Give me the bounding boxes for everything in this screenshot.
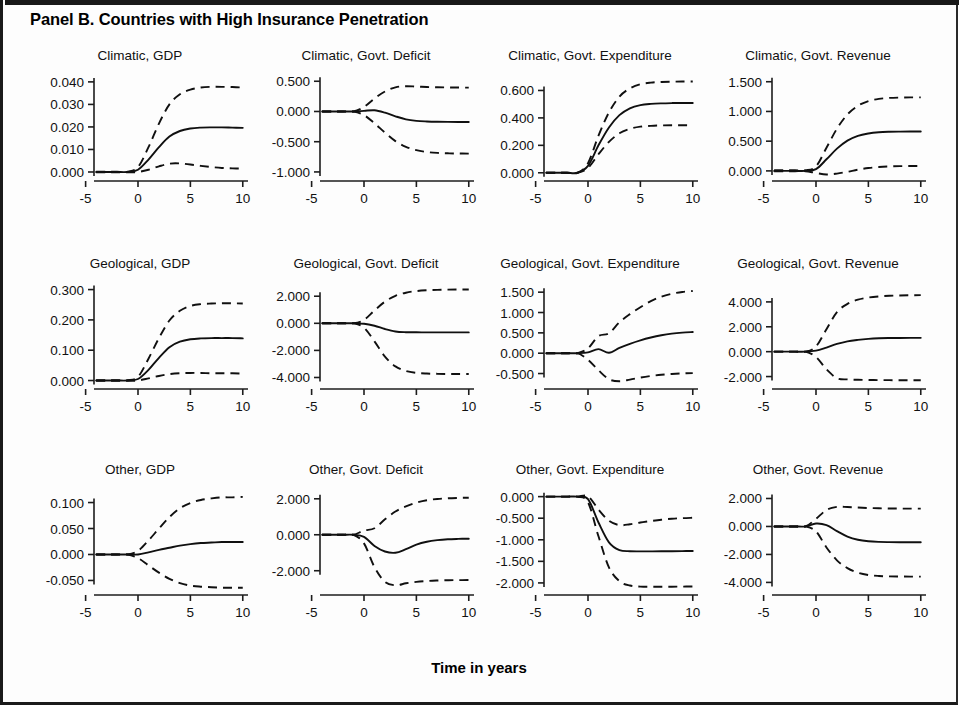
svg-text:0.000: 0.000	[728, 164, 762, 179]
svg-text:0: 0	[360, 399, 368, 414]
svg-text:5: 5	[637, 191, 645, 206]
irf-line-upper	[546, 82, 693, 174]
svg-text:0.000: 0.000	[276, 528, 310, 543]
svg-text:-0.500: -0.500	[272, 135, 310, 150]
panel-title: Geological, Govt. Revenue	[700, 256, 936, 271]
svg-text:10: 10	[685, 605, 700, 620]
svg-text:1.000: 1.000	[728, 104, 762, 119]
irf-line-upper	[546, 495, 693, 525]
svg-text:-2.000: -2.000	[724, 547, 762, 562]
svg-text:-2.000: -2.000	[724, 370, 762, 385]
irf-line-upper	[774, 97, 921, 170]
panel-10: Other, Govt. Expenditure-2.000-1.500-1.0…	[472, 462, 708, 635]
svg-text:1.000: 1.000	[500, 306, 534, 321]
panel-title: Other, Govt. Deficit	[248, 462, 484, 477]
panel-title: Geological, GDP	[22, 256, 258, 271]
svg-text:5: 5	[637, 399, 645, 414]
panel-title: Geological, Govt. Deficit	[248, 256, 484, 271]
svg-text:5: 5	[413, 605, 421, 620]
panel-plot: -2.000-1.500-1.000-0.5000.000-50510	[472, 478, 708, 633]
svg-text:5: 5	[865, 399, 873, 414]
svg-text:-0.500: -0.500	[496, 367, 534, 382]
panel-plot: -2.0000.0002.000-50510	[248, 478, 484, 633]
svg-text:-5: -5	[758, 605, 770, 620]
svg-text:0.100: 0.100	[50, 343, 84, 358]
svg-text:0.500: 0.500	[500, 326, 534, 341]
svg-text:0.200: 0.200	[500, 138, 534, 153]
svg-text:0.000: 0.000	[50, 165, 84, 180]
irf-line-estimate	[322, 323, 469, 332]
svg-text:-1.500: -1.500	[496, 554, 534, 569]
svg-text:0.010: 0.010	[50, 142, 84, 157]
svg-text:5: 5	[413, 191, 421, 206]
panel-plot: -0.5000.0000.5001.0001.500-50510	[472, 272, 708, 427]
irf-line-estimate	[546, 103, 693, 173]
svg-text:-4.000: -4.000	[724, 575, 762, 590]
panel-plot: -4.000-2.0000.0002.000-50510	[248, 272, 484, 427]
svg-text:-4.000: -4.000	[272, 370, 310, 385]
irf-line-upper	[96, 87, 243, 172]
panel-9: Other, Govt. Deficit-2.0000.0002.000-505…	[248, 462, 484, 635]
x-axis-title: Time in years	[0, 659, 958, 676]
svg-text:2.000: 2.000	[728, 320, 762, 335]
svg-text:0: 0	[584, 399, 592, 414]
svg-text:0.000: 0.000	[728, 519, 762, 534]
svg-text:-5: -5	[530, 399, 542, 414]
svg-text:2.000: 2.000	[728, 491, 762, 506]
svg-text:5: 5	[865, 605, 873, 620]
svg-text:10: 10	[685, 399, 700, 414]
irf-line-upper	[322, 86, 469, 112]
svg-text:2.000: 2.000	[276, 492, 310, 507]
irf-line-upper	[322, 498, 469, 535]
irf-line-lower	[322, 534, 469, 585]
svg-text:-2.000: -2.000	[272, 343, 310, 358]
panel-plot: -0.0500.0000.0500.100-50510	[22, 478, 258, 633]
svg-text:-5: -5	[80, 191, 92, 206]
svg-text:-5: -5	[530, 605, 542, 620]
panel-plot: 0.0000.1000.2000.300-50510	[22, 272, 258, 427]
svg-text:-0.050: -0.050	[46, 573, 84, 588]
svg-text:0.000: 0.000	[728, 345, 762, 360]
irf-line-estimate	[96, 127, 243, 172]
irf-line-upper	[322, 289, 469, 323]
svg-text:0.400: 0.400	[500, 111, 534, 126]
irf-line-upper	[774, 295, 921, 352]
panel-5: Geological, Govt. Deficit-4.000-2.0000.0…	[248, 256, 484, 429]
svg-text:-5: -5	[306, 399, 318, 414]
svg-text:-5: -5	[306, 191, 318, 206]
panel-plot: 0.0000.2000.4000.600-50510	[472, 64, 708, 219]
svg-text:0.100: 0.100	[50, 496, 84, 511]
irf-line-lower	[774, 526, 921, 577]
svg-text:0.000: 0.000	[276, 316, 310, 331]
svg-text:0.000: 0.000	[276, 104, 310, 119]
svg-text:1.500: 1.500	[500, 285, 534, 300]
svg-text:0: 0	[812, 605, 820, 620]
svg-text:0: 0	[584, 605, 592, 620]
svg-text:10: 10	[685, 191, 700, 206]
panel-3: Climatic, Govt. Revenue0.0000.5001.0001.…	[700, 48, 936, 221]
panel-title: Climatic, Govt. Deficit	[248, 48, 484, 63]
irf-line-lower	[96, 554, 243, 588]
svg-text:-0.500: -0.500	[496, 511, 534, 526]
svg-text:-5: -5	[80, 605, 92, 620]
svg-text:0.300: 0.300	[50, 283, 84, 298]
panel-6: Geological, Govt. Expenditure-0.5000.000…	[472, 256, 708, 429]
svg-text:10: 10	[913, 399, 928, 414]
panel-title: Climatic, Govt. Revenue	[700, 48, 936, 63]
svg-text:-5: -5	[306, 605, 318, 620]
svg-text:0.600: 0.600	[500, 83, 534, 98]
panel-title: Other, GDP	[22, 462, 258, 477]
svg-text:-5: -5	[80, 399, 92, 414]
svg-text:10: 10	[913, 605, 928, 620]
svg-text:-1.000: -1.000	[272, 165, 310, 180]
irf-line-upper	[96, 303, 243, 380]
panel-title: Climatic, GDP	[22, 48, 258, 63]
irf-line-upper	[96, 497, 243, 555]
svg-text:5: 5	[865, 191, 873, 206]
svg-text:-5: -5	[530, 191, 542, 206]
svg-text:0: 0	[360, 191, 368, 206]
svg-text:10: 10	[913, 191, 928, 206]
svg-text:2.000: 2.000	[276, 289, 310, 304]
irf-line-lower	[546, 125, 693, 173]
